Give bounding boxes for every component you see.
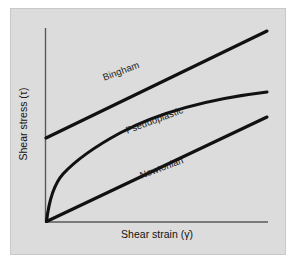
curve-pseudoplastic [47,92,268,222]
plot-canvas [0,0,298,267]
x-axis-label: Shear strain (γ̇) [45,228,269,240]
y-axis-label: Shear stress (τ) [17,44,29,204]
figure-container: Bingham Pseudoplastic Newtonian Shear st… [0,0,298,267]
